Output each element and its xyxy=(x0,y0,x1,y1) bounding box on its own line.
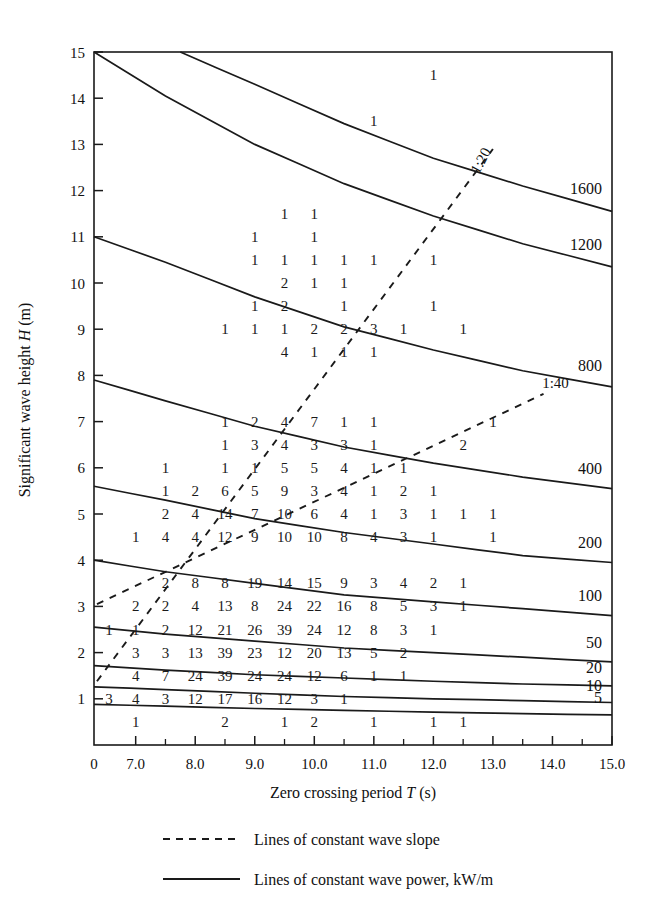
data-cell-count: 1 xyxy=(430,529,438,545)
data-cell-count: 3 xyxy=(105,691,113,707)
data-cell-count: 12 xyxy=(277,645,292,661)
figure-canvas: 123456789101112131415 07.08.09.010.011.0… xyxy=(0,0,659,908)
data-cell-count: 4 xyxy=(191,529,199,545)
y-axis-tick-labels: 123456789101112131415 xyxy=(70,45,86,708)
data-cell-count: 1 xyxy=(311,206,319,222)
x-tick-label: 0 xyxy=(90,756,98,772)
power-contour-label: 5 xyxy=(594,689,602,706)
y-tick-label: 6 xyxy=(78,460,86,476)
data-cell-count: 3 xyxy=(311,437,319,453)
data-cell-count: 12 xyxy=(277,691,292,707)
data-cell-count: 4 xyxy=(191,598,199,614)
y-tick-label: 1 xyxy=(78,691,86,707)
data-cell-count: 2 xyxy=(251,414,259,430)
wave-scatter-diagram-figure: 123456789101112131415 07.08.09.010.011.0… xyxy=(0,0,659,908)
data-cell-count: 2 xyxy=(162,622,170,638)
data-cell-count: 6 xyxy=(311,506,319,522)
data-cell-count: 1 xyxy=(430,252,438,268)
data-cell-count: 23 xyxy=(247,645,262,661)
data-cell-count: 9 xyxy=(340,575,348,591)
y-tick-label: 10 xyxy=(70,276,85,292)
data-cell-count: 1 xyxy=(340,298,348,314)
x-tick-label: 11.0 xyxy=(361,756,387,772)
axis-title-prefix: Significant wave height xyxy=(16,341,34,497)
data-cell-count: 3 xyxy=(400,622,408,638)
data-cell-count: 1 xyxy=(459,321,467,337)
data-cell-count: 14 xyxy=(217,506,233,522)
power-contour-line xyxy=(94,666,612,686)
power-contour-label: 20 xyxy=(586,659,602,676)
data-cell-count: 1 xyxy=(430,67,438,83)
data-cell-count: 2 xyxy=(311,714,319,730)
power-contour-line xyxy=(94,237,612,387)
data-cell-count: 8 xyxy=(221,575,229,591)
y-tick-label: 4 xyxy=(78,553,86,569)
data-cell-count: 4 xyxy=(281,437,289,453)
legend: Lines of constant wave slope Lines of co… xyxy=(163,831,494,889)
power-contour-line xyxy=(94,687,612,703)
data-cell-count: 1 xyxy=(132,714,140,730)
slope-label-1-40: 1:40 xyxy=(542,375,569,391)
x-tick-label: 13.0 xyxy=(480,756,506,772)
power-contour-line xyxy=(94,704,612,715)
data-cell-count: 1 xyxy=(221,437,229,453)
data-cell-count: 2 xyxy=(459,437,467,453)
data-cell-count: 1 xyxy=(221,414,229,430)
x-tick-label: 7.0 xyxy=(126,756,145,772)
data-cell-count: 1 xyxy=(162,483,170,499)
power-contour-label: 50 xyxy=(586,634,602,651)
data-cell-count: 1 xyxy=(400,460,408,476)
y-tick-label: 3 xyxy=(78,599,86,615)
data-cell-count: 21 xyxy=(217,622,232,638)
data-cell-counts: 3431217161231121211147243924241261133133… xyxy=(105,67,497,730)
data-cell-count: 19 xyxy=(247,575,262,591)
y-tick-label: 9 xyxy=(78,322,86,338)
x-axis-title: Zero crossing period T (s) xyxy=(270,784,436,802)
power-contour-label: 800 xyxy=(578,357,602,374)
data-cell-count: 6 xyxy=(221,483,229,499)
data-cell-count: 7 xyxy=(162,668,170,684)
data-cell-count: 1 xyxy=(221,321,229,337)
data-cell-count: 4 xyxy=(191,506,199,522)
slope-line xyxy=(97,394,544,604)
data-cell-count: 1 xyxy=(105,622,113,638)
data-cell-count: 4 xyxy=(132,691,140,707)
data-cell-count: 7 xyxy=(251,506,259,522)
power-contour-line xyxy=(180,52,612,211)
power-contour-label: 1600 xyxy=(570,180,602,197)
data-cell-count: 39 xyxy=(277,622,292,638)
data-cell-count: 10 xyxy=(277,506,292,522)
axis-title-suffix: (m) xyxy=(16,303,34,330)
y-tick-label: 2 xyxy=(78,645,86,661)
y-tick-label: 14 xyxy=(70,91,86,107)
data-cell-count: 10 xyxy=(307,529,322,545)
x-tick-label: 9.0 xyxy=(245,756,264,772)
slope-line-labels: 1:201:40 xyxy=(467,145,569,391)
data-cell-count: 1 xyxy=(340,275,348,291)
data-cell-count: 1 xyxy=(251,229,259,245)
power-contour-label: 400 xyxy=(578,460,602,477)
data-cell-count: 16 xyxy=(247,691,263,707)
data-cell-count: 1 xyxy=(489,414,497,430)
data-cell-count: 9 xyxy=(251,529,259,545)
data-cell-count: 2 xyxy=(132,598,140,614)
data-cell-count: 1 xyxy=(400,668,408,684)
data-cell-count: 24 xyxy=(247,668,263,684)
power-contour-line xyxy=(94,560,612,615)
data-cell-count: 3 xyxy=(370,575,378,591)
data-cell-count: 1 xyxy=(281,714,289,730)
power-contour-line xyxy=(94,627,612,662)
data-cell-count: 1 xyxy=(281,252,289,268)
y-tick-label: 13 xyxy=(70,137,85,153)
x-tick-label: 10.0 xyxy=(301,756,327,772)
data-cell-count: 9 xyxy=(281,483,289,499)
data-cell-count: 12 xyxy=(337,622,352,638)
data-cell-count: 5 xyxy=(251,483,259,499)
y-axis-title: Significant wave height H (m) xyxy=(16,303,34,498)
data-cell-count: 3 xyxy=(430,598,438,614)
power-contour-line xyxy=(94,486,612,562)
data-cell-count: 10 xyxy=(277,529,292,545)
data-cell-count: 1 xyxy=(340,414,348,430)
data-cell-count: 1 xyxy=(459,575,467,591)
data-cell-count: 5 xyxy=(370,645,378,661)
